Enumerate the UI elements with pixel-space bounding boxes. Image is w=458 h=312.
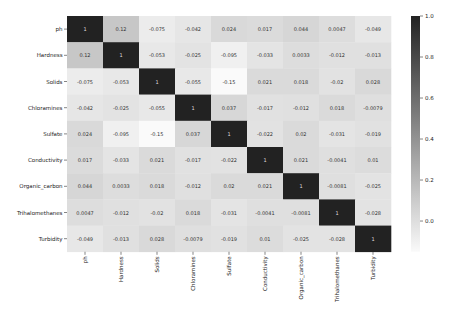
x-tick-label: Trihalomethanes (334, 256, 340, 303)
cell-value-label: 0.0047 (328, 26, 346, 32)
colorbar-gradient (411, 16, 420, 252)
cell-value-label: 0.01 (259, 236, 270, 242)
x-tick-label: Chloramines (190, 256, 196, 291)
cell-value-label: -0.053 (113, 79, 129, 85)
cell-value-label: 1 (191, 105, 194, 111)
cell-value-label: -0.012 (113, 210, 129, 216)
cell-value-label: 0.024 (78, 131, 92, 137)
cell-value-label: 0.021 (150, 157, 164, 163)
cell-value-label: 1 (83, 26, 86, 32)
cell-value-label: -0.022 (257, 131, 273, 137)
y-tick-label: Trihalomethanes (16, 210, 63, 216)
x-tick-label: Organic_carbon (298, 256, 305, 300)
cell-value-label: 0.028 (366, 79, 380, 85)
cell-value-label: 0.017 (78, 157, 92, 163)
cell-value-label: 1 (119, 52, 122, 58)
cell-value-label: -0.033 (257, 52, 273, 58)
y-tick-label: Sulfate (43, 131, 63, 137)
y-tick-label: Organic_carbon (19, 183, 63, 190)
cell-value-label: 1 (263, 157, 266, 163)
cell-value-label: -0.012 (293, 105, 309, 111)
cell-value-label: 0.021 (258, 79, 272, 85)
cell-value-label: -0.15 (223, 79, 236, 85)
cell-value-label: 0.044 (294, 26, 308, 32)
cell-value-label: 1 (227, 131, 230, 137)
cell-value-label: 0.024 (222, 26, 236, 32)
cell-value-label: -0.025 (365, 183, 381, 189)
cell-value-label: -0.017 (257, 105, 273, 111)
cell-value-label: 0.037 (186, 131, 200, 137)
cell-value-label: -0.0081 (327, 183, 346, 189)
x-tick-label: Turbidity (370, 256, 377, 281)
cell-value-label: 1 (155, 79, 158, 85)
x-tick-label: ph (82, 256, 89, 263)
cell-value-label: 1 (371, 236, 374, 242)
cell-value-label: 0.017 (258, 26, 272, 32)
cell-value-label: 0.02 (223, 183, 234, 189)
cell-value-label: -0.025 (185, 52, 201, 58)
colorbar-tick-label: 0.0 (425, 218, 434, 224)
cell-value-label: 0.018 (294, 79, 308, 85)
cell-value-label: -0.019 (221, 236, 237, 242)
y-tick-label: Turbidity (38, 236, 63, 243)
y-axis-labels: phHardnessSolidsChloraminesSulfateConduc… (16, 26, 67, 243)
x-tick-label: Sulfate (226, 256, 232, 276)
cell-value-label: -0.013 (113, 236, 129, 242)
y-tick-label: Chloramines (28, 105, 63, 111)
cell-value-label: 0.044 (78, 183, 92, 189)
cell-value-label: -0.017 (185, 157, 201, 163)
cell-value-label: 0.02 (295, 131, 306, 137)
x-tick-label: Solids (154, 256, 160, 272)
correlation-heatmap: 10.12-0.075-0.0420.0240.0170.0440.0047-0… (0, 0, 458, 312)
y-tick-label: ph (56, 26, 63, 33)
x-tick-label: Hardness (118, 256, 124, 282)
cell-value-label: 0.018 (330, 105, 344, 111)
cell-value-label: -0.049 (365, 26, 381, 32)
cell-value-label: -0.042 (185, 26, 201, 32)
colorbar-tick-label: 0.6 (425, 95, 434, 101)
cell-value-label: 0.01 (367, 157, 378, 163)
cell-value-label: 0.12 (79, 52, 90, 58)
cell-value-label: -0.025 (293, 236, 309, 242)
heatmap-cells: 10.12-0.075-0.0420.0240.0170.0440.0047-0… (67, 16, 391, 252)
cell-value-label: -0.0079 (183, 236, 202, 242)
y-tick-label: Hardness (37, 52, 63, 58)
cell-value-label: -0.019 (365, 131, 381, 137)
colorbar-tick-label: 0.2 (425, 177, 434, 183)
cell-value-label: -0.055 (185, 79, 201, 85)
cell-value-label: -0.028 (329, 236, 345, 242)
cell-value-label: -0.0081 (291, 210, 310, 216)
cell-value-label: -0.012 (185, 183, 201, 189)
cell-value-label: -0.025 (113, 105, 129, 111)
x-tick-label: Conductivity (262, 256, 269, 291)
cell-value-label: 0.0047 (76, 210, 94, 216)
cell-value-label: -0.075 (149, 26, 165, 32)
cell-value-label: -0.095 (113, 131, 129, 137)
cell-value-label: -0.031 (221, 210, 237, 216)
cell-value-label: -0.053 (149, 52, 165, 58)
cell-value-label: -0.028 (365, 210, 381, 216)
cell-value-label: -0.075 (77, 79, 93, 85)
cell-value-label: 0.12 (115, 26, 126, 32)
x-axis-labels: phHardnessSolidsChloraminesSulfateConduc… (82, 252, 377, 303)
cell-value-label: -0.033 (113, 157, 129, 163)
y-tick-label: Solids (46, 79, 62, 85)
cell-value-label: 0.0033 (292, 52, 310, 58)
cell-value-label: -0.095 (221, 52, 237, 58)
colorbar-tick-label: 0.8 (425, 54, 434, 60)
cell-value-label: -0.013 (365, 52, 381, 58)
cell-value-label: 0.021 (258, 183, 272, 189)
cell-value-label: 0.021 (294, 157, 308, 163)
cell-value-label: -0.02 (151, 210, 164, 216)
cell-value-label: 0.028 (150, 236, 164, 242)
cell-value-label: 1 (299, 183, 302, 189)
cell-value-label: 0.018 (186, 210, 200, 216)
colorbar-tick-label: 1.0 (425, 13, 434, 19)
cell-value-label: 0.037 (222, 105, 236, 111)
cell-value-label: -0.049 (77, 236, 93, 242)
colorbar: 1.00.80.60.40.20.0 (411, 13, 434, 252)
cell-value-label: -0.0041 (255, 210, 274, 216)
y-tick-label: Conductivity (28, 157, 63, 164)
cell-value-label: -0.042 (77, 105, 93, 111)
cell-value-label: -0.0041 (327, 157, 346, 163)
